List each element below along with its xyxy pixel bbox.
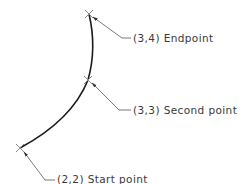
diagram-svg: (3,4) Endpoint (3,3) Second point (2,2) …: [0, 0, 250, 184]
start-point-leader: [24, 152, 55, 180]
arc: [20, 14, 93, 148]
arc-diagram: (3,4) Endpoint (3,3) Second point (2,2) …: [0, 0, 250, 184]
start-point-marker-icon: [16, 144, 24, 152]
start-point-label: (2,2) Start point: [57, 173, 148, 184]
endpoint-label: (3,4) Endpoint: [133, 32, 214, 44]
endpoint-leader: [93, 17, 131, 38]
second-point-label: (3,3) Second point: [133, 104, 237, 116]
second-point-leader: [92, 83, 131, 110]
